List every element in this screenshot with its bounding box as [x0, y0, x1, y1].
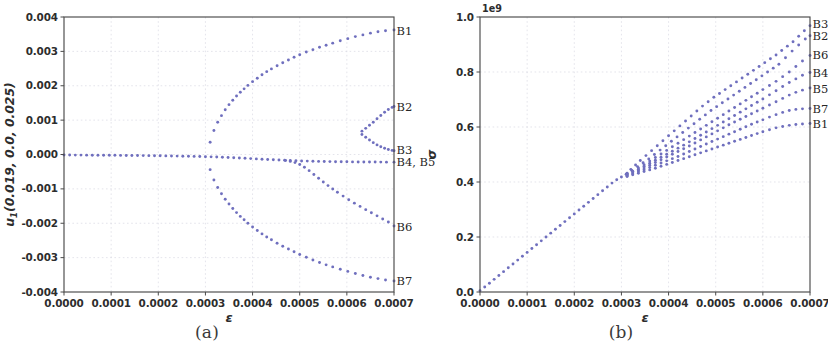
data-point: [311, 259, 314, 262]
data-point: [803, 29, 806, 32]
y-tick-label: -0.004: [21, 286, 58, 298]
data-point: [582, 205, 585, 208]
data-point: [228, 103, 231, 106]
x-tick-label: 0.0003: [602, 297, 642, 309]
data-point: [794, 108, 797, 111]
data-point: [346, 270, 349, 273]
data-point: [549, 232, 552, 235]
data-point: [387, 221, 390, 224]
data-point: [768, 116, 771, 119]
data-point: [648, 166, 651, 169]
data-point: [108, 154, 111, 157]
data-point: [340, 160, 343, 163]
data-point: [376, 214, 379, 217]
data-point: [678, 124, 681, 127]
data-point: [85, 154, 88, 157]
data-point: [210, 155, 213, 158]
data-point: [601, 189, 604, 192]
data-point: [209, 168, 212, 171]
data-point: [677, 159, 680, 162]
data-point: [760, 74, 763, 77]
data-point: [311, 160, 314, 163]
data-point: [716, 129, 719, 132]
data-point: [682, 157, 685, 160]
data-point: [204, 155, 207, 158]
data-point: [722, 121, 725, 124]
data-point: [488, 282, 491, 285]
data-point: [756, 132, 759, 135]
data-point: [694, 137, 697, 140]
data-point: [682, 144, 685, 147]
data-point: [256, 229, 259, 232]
data-point: [722, 113, 725, 116]
data-point: [788, 109, 791, 112]
data-point: [239, 215, 242, 218]
branch-label: B4: [813, 66, 828, 80]
data-point: [276, 242, 279, 245]
data-point: [750, 104, 753, 107]
data-point: [794, 65, 797, 68]
data-point: [722, 126, 725, 129]
y-tick-label: 1.0: [456, 11, 474, 23]
y-tick-label: 0.8: [456, 66, 474, 78]
data-point: [265, 70, 268, 73]
data-point: [660, 156, 663, 159]
data-point: [483, 286, 486, 289]
data-point: [212, 129, 215, 132]
data-point: [159, 154, 162, 157]
data-point: [801, 60, 804, 63]
data-point: [587, 201, 590, 204]
data-point: [272, 158, 275, 161]
x-tick-label: 0.0001: [91, 297, 131, 309]
data-point: [354, 35, 357, 38]
data-point: [540, 239, 543, 242]
data-point: [266, 158, 269, 161]
y-tick-label: 0.4: [456, 176, 474, 188]
data-point: [142, 154, 145, 157]
data-point: [732, 94, 735, 97]
subcaption-a: (a): [0, 322, 414, 342]
data-point: [665, 156, 668, 159]
data-point: [318, 46, 321, 49]
data-point: [756, 110, 759, 113]
data-point: [220, 114, 223, 117]
data-point: [232, 156, 235, 159]
data-point: [712, 96, 715, 99]
data-point: [788, 81, 791, 84]
data-point: [298, 163, 301, 166]
data-point: [354, 272, 357, 275]
data-point: [768, 104, 771, 107]
y-axis-title: σ: [424, 149, 439, 159]
data-point: [176, 155, 179, 158]
data-point: [243, 218, 246, 221]
data-point: [695, 110, 698, 113]
data-point: [377, 277, 380, 280]
data-point: [224, 198, 227, 201]
data-point: [216, 186, 219, 189]
data-point: [677, 142, 680, 145]
data-point: [781, 97, 784, 100]
data-point: [346, 37, 349, 40]
data-point: [244, 157, 247, 160]
data-point: [775, 89, 778, 92]
data-point: [130, 154, 133, 157]
data-point: [721, 101, 724, 104]
data-point: [677, 150, 680, 153]
data-point: [164, 154, 167, 157]
data-point: [727, 117, 730, 120]
data-point: [102, 154, 105, 157]
data-point: [763, 61, 766, 64]
data-point: [744, 136, 747, 139]
data-point: [256, 77, 259, 80]
data-point: [744, 107, 747, 110]
y-tick-label: 0.002: [26, 79, 58, 91]
data-point: [360, 130, 363, 133]
data-point: [384, 279, 387, 282]
data-point: [243, 87, 246, 90]
plot-a: 0.00000.00010.00020.00030.00040.00050.00…: [0, 0, 414, 351]
series-B3: [360, 133, 395, 152]
data-point: [665, 159, 668, 162]
data-point: [671, 150, 674, 153]
data-point: [379, 114, 382, 117]
data-point: [331, 188, 334, 191]
